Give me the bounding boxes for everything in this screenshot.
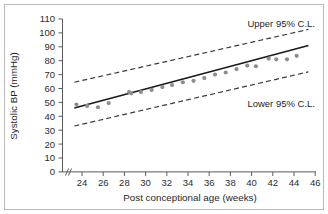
x-tick-label: 34 [183,177,194,188]
y-tick-label: 0 [50,166,55,177]
data-point [139,90,143,94]
x-tick-label: 36 [204,177,215,188]
data-point [170,83,174,87]
upper-cl-annotation: Upper 95% C.L. [247,18,315,29]
y-axis-tick-labels: 110 100 90 80 70 60 50 40 30 20 10 0 [39,13,55,177]
x-tick-label: 44 [289,177,300,188]
y-tick-label: 110 [40,13,55,24]
upper-confidence-limit-line [74,29,308,82]
data-point [191,79,195,83]
y-tick-label: 70 [44,69,55,80]
x-tick-label: 42 [268,177,279,188]
y-tick-label: 40 [44,111,55,122]
y-tick-label: 50 [44,97,55,108]
data-point [96,105,100,109]
x-tick-label: 24 [77,177,88,188]
y-tick-label: 60 [44,83,55,94]
x-tick-label: 40 [246,177,257,188]
data-point [74,102,78,106]
x-axis-title: Post conceptional age (weeks) [123,192,256,203]
y-tick-label: 20 [44,139,55,150]
data-point [245,63,249,67]
data-point [295,54,299,58]
y-axis-title: Systolic BP (mmHg) [8,52,19,139]
x-tick-label: 32 [162,177,173,188]
y-axis-ticks [59,19,63,172]
x-axis-ticks [82,172,315,176]
data-point [234,67,238,71]
y-tick-label: 80 [44,55,55,66]
data-point [224,70,228,74]
data-point [129,91,133,95]
upper-cl-line-group [74,29,308,82]
data-point [213,73,217,77]
x-tick-label: 38 [225,177,236,188]
data-point [107,101,111,105]
y-tick-label: 10 [44,152,55,163]
x-tick-label: 26 [98,177,109,188]
data-point [181,80,185,84]
x-tick-label: 28 [119,177,130,188]
figure-container: 110 100 90 80 70 60 50 40 30 20 10 0 Sys… [0,0,328,214]
x-tick-label: 30 [140,177,151,188]
data-point [160,85,164,89]
x-tick-label: 46 [310,177,321,188]
lower-cl-annotation: Lower 95% C.L. [247,98,315,109]
y-axis: 110 100 90 80 70 60 50 40 30 20 10 0 Sys… [8,13,63,177]
data-point [150,88,154,92]
chart-plot: 110 100 90 80 70 60 50 40 30 20 10 0 Sys… [0,0,328,214]
y-tick-label: 100 [39,27,55,38]
y-tick-label: 90 [44,41,55,52]
data-point [267,57,271,61]
y-tick-label: 30 [44,125,55,136]
data-point [85,104,89,108]
data-point [274,57,278,61]
x-axis-tick-labels: 24 26 28 30 32 34 36 38 40 42 44 46 [77,177,321,188]
data-point [202,76,206,80]
x-axis: 24 26 28 30 32 34 36 38 40 42 44 46 Post… [63,169,321,204]
data-point [285,57,289,61]
data-point [254,64,258,68]
